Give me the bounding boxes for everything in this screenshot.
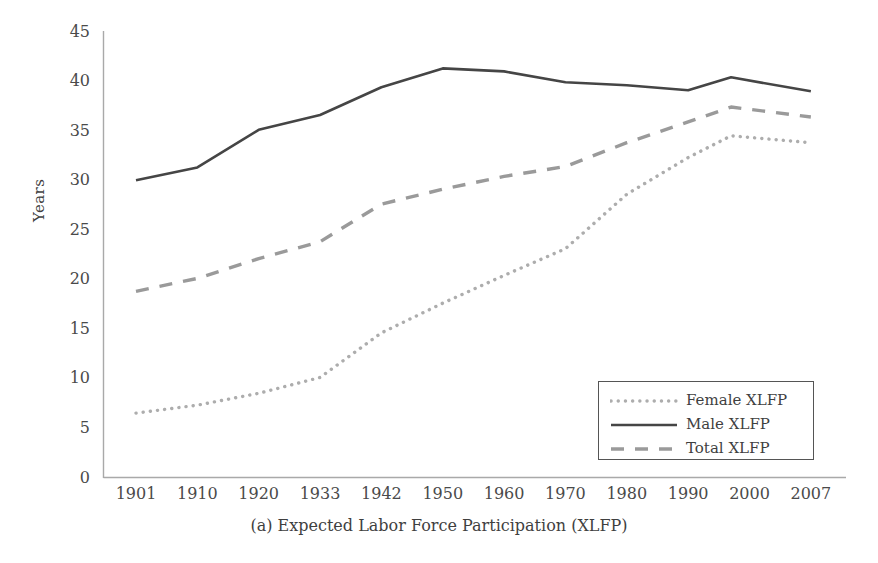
chart-canvas: [0, 0, 878, 563]
legend-label: Total XLFP: [686, 439, 770, 457]
series-line-female-xlfp: [136, 136, 811, 413]
x-axis-tick-label: 2000: [720, 484, 780, 503]
x-axis-tick-label: 1901: [106, 484, 166, 503]
y-axis-tick-label: 45: [50, 22, 90, 41]
x-axis-tick-label: 1950: [413, 484, 473, 503]
x-axis-tick-label: 1910: [167, 484, 227, 503]
y-axis-tick-label: 15: [50, 319, 90, 338]
x-axis-tick-label: 1980: [597, 484, 657, 503]
figure-panel: Years 051015202530354045 190119101920193…: [0, 0, 878, 563]
legend-swatch-solid: [610, 417, 678, 431]
y-axis-tick-label: 0: [50, 468, 90, 487]
y-axis-tick-label: 35: [50, 121, 90, 140]
legend-label: Female XLFP: [686, 391, 787, 409]
legend-label: Male XLFP: [686, 415, 770, 433]
chart-legend: Female XLFPMale XLFPTotal XLFP: [598, 381, 814, 460]
y-axis-tick-label: 10: [50, 368, 90, 387]
x-axis-tick-label: 2007: [781, 484, 841, 503]
x-axis-tick-label: 1970: [535, 484, 595, 503]
series-line-total-xlfp: [136, 107, 811, 291]
legend-swatch-dashed: [610, 441, 678, 455]
x-axis-tick-label: 1920: [229, 484, 289, 503]
y-axis-tick-label: 25: [50, 220, 90, 239]
x-axis-tick-label: 1990: [658, 484, 718, 503]
series-line-male-xlfp: [136, 68, 811, 180]
x-axis-tick-label: 1933: [290, 484, 350, 503]
y-axis-tick-label: 30: [50, 170, 90, 189]
legend-item: Total XLFP: [599, 435, 815, 461]
x-axis-tick-label: 1960: [474, 484, 534, 503]
legend-item: Female XLFP: [599, 387, 815, 413]
x-axis-tick-label: 1942: [351, 484, 411, 503]
legend-swatch-dotted: [610, 393, 678, 407]
y-axis-label: Years: [30, 192, 48, 222]
legend-item: Male XLFP: [599, 411, 815, 437]
series-layer: [136, 68, 811, 413]
y-axis-tick-label: 40: [50, 71, 90, 90]
figure-caption: (a) Expected Labor Force Participation (…: [0, 516, 878, 535]
y-axis-tick-label: 5: [50, 418, 90, 437]
y-axis-tick-label: 20: [50, 269, 90, 288]
